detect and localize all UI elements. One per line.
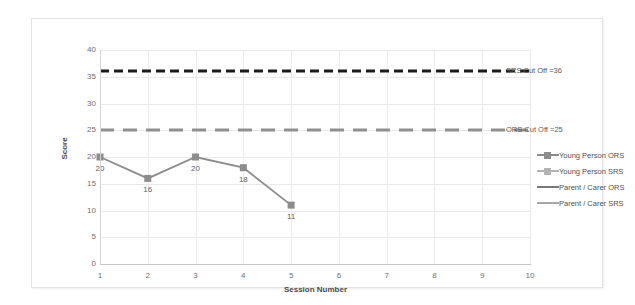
chart-container: 2016201811 4035302520151050 12345678910 … xyxy=(31,18,603,288)
y-axis-tick-label: 40 xyxy=(72,46,96,54)
x-axis-tick-label: 8 xyxy=(419,271,449,280)
legend-swatch-icon xyxy=(537,166,559,176)
y-axis-tick-label: 10 xyxy=(72,207,96,215)
legend-item-label: Parent / Carer ORS xyxy=(559,183,624,192)
legend-swatch-icon xyxy=(537,182,559,192)
x-axis-tick-label: 9 xyxy=(467,271,497,280)
legend-item[interactable]: Young Person SRS xyxy=(537,163,635,179)
data-point-marker xyxy=(144,175,151,182)
legend-swatch-icon xyxy=(537,198,559,208)
data-point-label: 20 xyxy=(182,164,210,173)
data-point-label: 18 xyxy=(229,175,257,184)
y-axis-tick-label: 20 xyxy=(72,153,96,161)
x-axis-tick-label: 7 xyxy=(372,271,402,280)
x-axis-tick-label: 10 xyxy=(515,271,545,280)
legend-item-label: Young Person SRS xyxy=(559,167,623,176)
legend-item-label: Parent / Carer SRS xyxy=(559,199,624,208)
x-axis-tick-label: 5 xyxy=(276,271,306,280)
legend-item-label: Young Person ORS xyxy=(559,151,624,160)
legend-item[interactable]: Young Person ORS xyxy=(537,147,635,163)
plot-area: 2016201811 xyxy=(100,50,530,264)
data-point-marker xyxy=(240,164,247,171)
y-axis-tick-label: 0 xyxy=(72,260,96,268)
x-axis-tick-label: 3 xyxy=(181,271,211,280)
annotation-srs-cut-off: SRS Cut Off =36 xyxy=(506,66,562,75)
gridline-vertical xyxy=(530,50,531,264)
y-axis-tick-label: 35 xyxy=(72,73,96,81)
series-young-person-ors xyxy=(100,50,530,264)
y-axis-tick-label: 5 xyxy=(72,233,96,241)
x-axis-tick-label: 4 xyxy=(228,271,258,280)
legend-swatch-icon xyxy=(537,150,559,160)
y-axis-title: Score xyxy=(60,137,69,159)
y-axis-tick-label: 15 xyxy=(72,180,96,188)
x-axis-tick-label: 2 xyxy=(133,271,163,280)
x-axis-line xyxy=(100,264,531,265)
x-axis-title: Session Number xyxy=(100,285,531,294)
x-axis-ticks: 12345678910 xyxy=(100,271,531,283)
y-axis-ticks: 4035302520151050 xyxy=(70,50,96,264)
legend-item[interactable]: Parent / Carer ORS xyxy=(537,179,635,195)
x-axis-tick-label: 1 xyxy=(85,271,115,280)
data-point-label: 16 xyxy=(134,185,162,194)
x-axis-tick-label: 6 xyxy=(324,271,354,280)
legend-item[interactable]: Parent / Carer SRS xyxy=(537,195,635,211)
y-axis-tick-label: 30 xyxy=(72,100,96,108)
data-point-marker xyxy=(192,154,199,161)
data-point-label: 11 xyxy=(277,212,305,221)
data-point-marker xyxy=(288,202,295,209)
y-axis-line xyxy=(100,50,101,265)
y-axis-tick-label: 25 xyxy=(72,126,96,134)
chart-legend: Young Person ORSYoung Person SRSParent /… xyxy=(537,147,635,211)
annotation-ors-cut-off: ORS Cut Off =25 xyxy=(506,125,563,134)
